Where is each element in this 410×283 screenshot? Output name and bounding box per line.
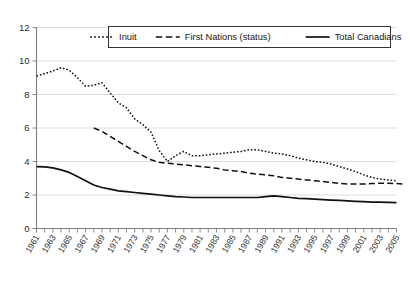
legend-item-label: Inuit (119, 32, 137, 42)
x-axis-tick-label: 2003 (367, 233, 385, 255)
x-axis-tick-label: 1971 (105, 233, 123, 255)
series-line-inuit (37, 68, 397, 181)
x-axis-tick-label: 1967 (72, 233, 90, 255)
y-axis-tick-label: 2 (24, 189, 29, 200)
y-axis-tick-label: 6 (24, 122, 29, 133)
x-axis-tick-label: 1999 (334, 233, 352, 255)
x-axis-tick-label: 2001 (350, 233, 368, 255)
x-axis-tick-label: 1969 (89, 233, 107, 255)
x-axis-tick-label: 1961 (23, 233, 41, 255)
y-axis-tick-label: 4 (24, 156, 29, 167)
x-axis-tick-label: 1997 (318, 233, 336, 255)
x-axis-tick-label: 1963 (40, 233, 58, 255)
x-axis-tick-label: 1995 (301, 233, 319, 255)
x-axis-tick-label: 1985 (220, 233, 238, 255)
x-axis-tick-label: 1981 (187, 233, 205, 255)
series-line-first-nations-status (94, 128, 405, 184)
y-axis-tick-label: 12 (19, 22, 30, 33)
x-axis-tick-label: 1965 (56, 233, 74, 255)
x-axis-tick-label: 1977 (154, 233, 172, 255)
x-axis-tick-label: 1983 (203, 233, 221, 255)
x-axis-tick-label: 2005 (383, 233, 401, 255)
x-axis-tick-label: 1993 (285, 233, 303, 255)
legend-item-label: Total Canadians (335, 32, 402, 42)
x-axis-tick-label: 1989 (252, 233, 270, 255)
x-axis-tick-label: 1979 (170, 233, 188, 255)
y-axis-tick-label: 10 (19, 55, 30, 66)
legend-item-label: First Nations (status) (185, 32, 271, 42)
y-axis-tick-label: 0 (24, 223, 29, 234)
chart-canvas: 0246810121961196319651967196919711973197… (0, 0, 410, 283)
x-axis-tick-label: 1975 (138, 233, 156, 255)
x-axis-tick-label: 1973 (121, 233, 139, 255)
series-line-total-canadians (37, 167, 397, 203)
line-chart: 0246810121961196319651967196919711973197… (0, 0, 410, 283)
y-axis-tick-label: 8 (24, 89, 29, 100)
x-axis-tick-label: 1991 (269, 233, 287, 255)
x-axis-tick-label: 1987 (236, 233, 254, 255)
